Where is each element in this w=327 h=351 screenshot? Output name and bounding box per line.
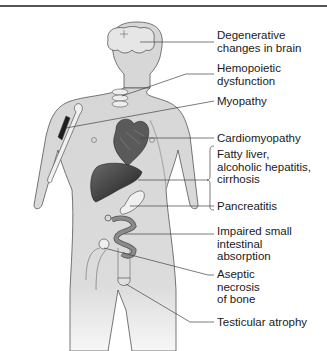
label-cardiomyopathy: Cardiomyopathy [217, 132, 301, 145]
label-pancreatitis: Pancreatitis [217, 200, 277, 213]
label-testes: Testicular atrophy [217, 316, 307, 329]
label-intestine: Impaired small intestinal absorption [217, 225, 292, 263]
liver-bracket [207, 146, 214, 210]
label-hemopoietic: Hemopoietic dysfunction [217, 62, 281, 87]
label-bone: Aseptic necrosis of bone [217, 268, 260, 306]
label-brain: Degenerative changes in brain [217, 29, 301, 54]
label-myopathy: Myopathy [217, 95, 267, 108]
label-liver: Fatty liver, alcoholic hepatitis, cirrho… [217, 148, 311, 186]
spine [112, 89, 128, 107]
brain [108, 27, 155, 54]
